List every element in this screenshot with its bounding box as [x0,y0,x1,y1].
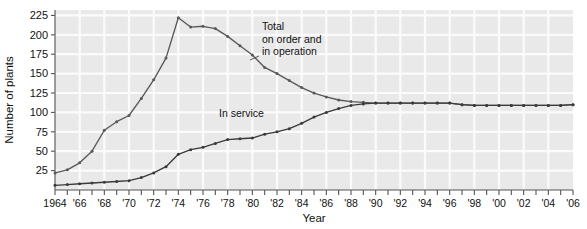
data-point [140,176,143,179]
data-point [510,104,513,107]
data-point [128,179,131,182]
data-point [165,57,168,60]
data-point [572,103,575,106]
x-tick-label: '66 [73,197,87,209]
data-point [226,35,229,38]
data-point [251,54,254,57]
data-point [54,171,57,174]
data-point [473,104,476,107]
data-point [288,127,291,130]
data-point [66,168,69,171]
data-point [461,103,464,106]
data-point [350,104,353,107]
y-tick-label: 175 [30,48,48,60]
y-tick-label: 225 [30,9,48,21]
data-point [300,122,303,125]
y-tick-label: 50 [36,145,48,157]
data-point [214,142,217,145]
data-point [547,104,550,107]
y-tick-label: 75 [36,126,48,138]
x-tick-label: '88 [344,197,358,209]
total-label: in operation [262,45,317,57]
x-tick-label: '90 [369,197,383,209]
x-tick-label: '70 [122,197,136,209]
data-point [128,114,131,117]
data-point [103,181,106,184]
data-point [189,26,192,29]
data-point [115,180,118,183]
x-tick-label: '92 [393,197,407,209]
data-point [288,79,291,82]
total-label: Total [262,20,284,32]
data-point [263,133,266,136]
y-tick-label: 150 [30,67,48,79]
data-point [152,171,155,174]
data-point [436,102,439,105]
y-tick-label: 25 [36,164,48,176]
chart-figure: 2550751001251501752002251964'66'68'70'72… [0,0,587,229]
data-point [177,16,180,19]
data-point [115,120,118,123]
data-point [226,138,229,141]
data-point [535,104,538,107]
data-point [239,137,242,140]
data-point [78,161,81,164]
data-point [387,102,390,105]
data-point [165,165,168,168]
x-tick-label: '94 [418,197,432,209]
data-point [522,104,525,107]
total-label: on order and [262,33,322,45]
x-tick-label: '98 [467,197,481,209]
data-point [54,184,57,187]
data-point [103,129,106,132]
data-point [78,182,81,185]
data-point [350,100,353,103]
data-point [485,104,488,107]
x-axis-title: Year [302,212,325,224]
x-tick-label: '82 [270,197,284,209]
data-point [325,111,328,114]
data-point [313,116,316,119]
data-point [300,86,303,89]
y-tick-label: 100 [30,106,48,118]
x-tick-label: '00 [492,197,506,209]
data-point [337,107,340,110]
x-tick-label: '78 [221,197,235,209]
data-point [202,146,205,149]
x-tick-label: '04 [541,197,555,209]
data-point [448,102,451,105]
data-point [177,153,180,156]
data-point [362,102,365,105]
data-point [91,182,94,185]
data-point [152,78,155,81]
data-point [399,102,402,105]
chart-canvas: 2550751001251501752002251964'66'68'70'72… [0,0,587,229]
data-point [337,99,340,102]
x-tick-label: 1964 [43,197,67,209]
y-tick-label: 200 [30,29,48,41]
y-tick-label: 125 [30,87,48,99]
x-tick-label: '68 [97,197,111,209]
data-point [239,44,242,47]
data-point [276,130,279,133]
x-tick-label: '86 [319,197,333,209]
x-tick-label: '06 [566,197,580,209]
data-point [276,72,279,75]
x-tick-label: '96 [443,197,457,209]
data-point [189,148,192,151]
y-axis-title: Number of plants [3,56,15,144]
data-point [202,25,205,28]
data-point [498,104,501,107]
data-point [313,92,316,95]
data-point [140,97,143,100]
data-point [374,102,377,105]
data-point [214,27,217,30]
data-point [325,95,328,98]
x-tick-label: '74 [171,197,185,209]
data-point [411,102,414,105]
in-service-label: In service [219,107,264,119]
data-point [559,104,562,107]
x-tick-label: '84 [295,197,309,209]
x-tick-label: '76 [196,197,210,209]
x-tick-label: '72 [147,197,161,209]
